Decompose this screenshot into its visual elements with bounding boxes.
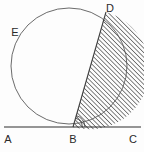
shaded-region-fill: [73, 12, 144, 129]
label-c: C: [129, 133, 137, 145]
label-a: A: [4, 133, 12, 145]
shaded-region: [73, 12, 144, 129]
label-d: D: [106, 2, 114, 14]
geometry-figure: A B C D E: [0, 0, 144, 152]
label-b: B: [69, 133, 76, 145]
geometry-canvas: A B C D E: [0, 0, 144, 152]
label-e: E: [11, 26, 18, 38]
